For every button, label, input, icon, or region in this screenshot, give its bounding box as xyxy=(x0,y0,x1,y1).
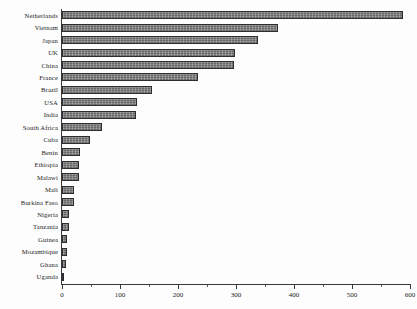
y-axis-label-guinea: Guinea xyxy=(38,236,58,243)
x-minor-tick-50 xyxy=(91,285,92,287)
x-minor-tick-150 xyxy=(149,285,150,287)
y-axis-line xyxy=(61,9,62,284)
x-tick-label-500: 500 xyxy=(347,291,358,299)
bar-row xyxy=(62,21,410,33)
x-minor-tick-450 xyxy=(323,285,324,287)
x-tick-200 xyxy=(178,285,179,289)
x-tick-400 xyxy=(294,285,295,289)
x-tick-label-100: 100 xyxy=(115,291,126,299)
bar-brazil xyxy=(62,86,152,94)
bar-row xyxy=(62,246,410,258)
bar-ghana xyxy=(62,260,66,268)
y-axis-label-benin: Benin xyxy=(41,149,58,156)
bar-row xyxy=(62,84,410,96)
bar-nigeria xyxy=(62,210,69,218)
bar-row xyxy=(62,134,410,146)
y-axis-label-brazil: Brazil xyxy=(41,86,58,93)
bar-benin xyxy=(62,148,80,156)
y-axis-label-burkina-faso: Burkina Faso xyxy=(21,199,58,206)
bar-row xyxy=(62,196,410,208)
x-tick-label-200: 200 xyxy=(173,291,184,299)
y-axis-label-china: China xyxy=(41,62,58,69)
x-tick-0 xyxy=(62,285,63,289)
x-tick-100 xyxy=(120,285,121,289)
bar-tanzania xyxy=(62,223,69,231)
x-tick-label-0: 0 xyxy=(60,291,64,299)
bar-uganda xyxy=(62,273,64,281)
bar-cuba xyxy=(62,136,90,144)
bar-row xyxy=(62,96,410,108)
x-minor-tick-550 xyxy=(381,285,382,287)
x-tick-300 xyxy=(236,285,237,289)
plot-area xyxy=(62,9,410,283)
bar-row xyxy=(62,9,410,21)
x-tick-600 xyxy=(410,285,411,289)
y-axis-label-tanzania: Tanzania xyxy=(33,223,58,230)
bar-row xyxy=(62,271,410,283)
y-axis-label-vietnam: Vietnam xyxy=(35,24,58,31)
x-minor-tick-350 xyxy=(265,285,266,287)
bar-row xyxy=(62,146,410,158)
bar-chart: NetherlandsVietnamJapanUKChinaFranceBraz… xyxy=(0,0,417,309)
bar-row xyxy=(62,171,410,183)
x-tick-label-300: 300 xyxy=(231,291,242,299)
x-tick-label-600: 600 xyxy=(405,291,416,299)
bar-china xyxy=(62,61,234,69)
y-axis-label-cuba: Cuba xyxy=(43,136,58,143)
y-axis-label-japan: Japan xyxy=(42,37,58,44)
bar-ethiopia xyxy=(62,161,79,169)
x-tick-500 xyxy=(352,285,353,289)
y-axis-labels: NetherlandsVietnamJapanUKChinaFranceBraz… xyxy=(0,9,58,283)
y-axis-label-south-africa: South Africa xyxy=(23,124,58,131)
y-axis-label-ethiopia: Ethiopia xyxy=(34,161,58,168)
bar-row xyxy=(62,34,410,46)
bar-malawi xyxy=(62,173,79,181)
y-axis-label-netherlands: Netherlands xyxy=(24,12,58,19)
bar-rows xyxy=(62,9,410,283)
y-axis-label-mozambique: Mozambique xyxy=(22,248,58,255)
x-tick-label-400: 400 xyxy=(289,291,300,299)
bar-france xyxy=(62,73,198,81)
bar-mozambique xyxy=(62,248,67,256)
bar-india xyxy=(62,111,136,119)
y-axis-label-usa: USA xyxy=(44,99,58,106)
bar-row xyxy=(62,109,410,121)
bar-guinea xyxy=(62,235,67,243)
bar-mali xyxy=(62,186,74,194)
bar-vietnam xyxy=(62,24,278,32)
y-axis-label-mali: Mali xyxy=(45,186,58,193)
bar-row xyxy=(62,258,410,270)
y-axis-label-uganda: Uganda xyxy=(37,273,58,280)
bar-usa xyxy=(62,98,137,106)
bar-row xyxy=(62,121,410,133)
y-axis-label-nigeria: Nigeria xyxy=(37,211,58,218)
y-axis-label-malawi: Malawi xyxy=(37,174,58,181)
bar-row xyxy=(62,183,410,195)
bar-japan xyxy=(62,36,258,44)
x-minor-tick-250 xyxy=(207,285,208,287)
bar-row xyxy=(62,221,410,233)
bar-netherlands xyxy=(62,11,403,19)
bar-row xyxy=(62,208,410,220)
bar-row xyxy=(62,46,410,58)
bar-row xyxy=(62,233,410,245)
bar-row xyxy=(62,158,410,170)
y-axis-label-uk: UK xyxy=(48,49,58,56)
y-axis-label-india: India xyxy=(44,111,58,118)
bar-south-africa xyxy=(62,123,102,131)
y-axis-label-france: France xyxy=(39,74,58,81)
y-axis-label-ghana: Ghana xyxy=(40,261,58,268)
bar-burkina-faso xyxy=(62,198,74,206)
bar-row xyxy=(62,71,410,83)
bar-row xyxy=(62,59,410,71)
bar-uk xyxy=(62,49,235,57)
